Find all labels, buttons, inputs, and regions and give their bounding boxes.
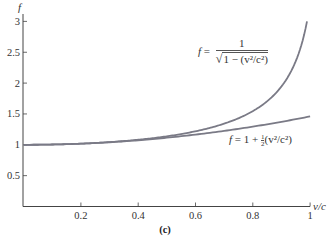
svg-text:0.4: 0.4 <box>132 210 146 221</box>
eq2-text: = 1 + <box>232 133 261 145</box>
svg-text:0.5: 0.5 <box>7 170 20 181</box>
chart-canvas: 0.511.522.53 0.20.40.60.81 f v/c <box>0 0 330 241</box>
eq1-radicand: 1 − (v²/c²) <box>222 52 268 65</box>
svg-text:1: 1 <box>307 210 312 221</box>
eq1-equals: = <box>201 45 213 57</box>
svg-text:0.6: 0.6 <box>189 210 202 221</box>
svg-text:2: 2 <box>15 78 20 89</box>
eq1-denominator: √1 − (v²/c²) <box>216 51 268 67</box>
y-ticks: 0.511.522.53 <box>7 16 27 181</box>
eq2-tail: (v²/c²) <box>264 133 291 145</box>
figure-caption: (c) <box>0 224 330 235</box>
eq1-numerator: 1 <box>216 37 268 51</box>
x-ticks: 0.20.40.60.81 <box>74 203 312 222</box>
x-axis-label: v/c <box>313 200 326 212</box>
svg-text:1: 1 <box>15 139 20 150</box>
svg-text:3: 3 <box>15 16 20 27</box>
svg-text:2.5: 2.5 <box>7 47 20 58</box>
svg-text:0.2: 0.2 <box>74 210 87 221</box>
svg-text:0.8: 0.8 <box>246 210 259 221</box>
y-axis-label: f <box>18 1 23 13</box>
eq1-fraction: 1 √1 − (v²/c²) <box>216 37 268 67</box>
approximation-equation-label: f = 1 + 12(v²/c²) <box>229 133 292 147</box>
relativistic-equation-label: f = 1 √1 − (v²/c²) <box>198 37 268 67</box>
svg-text:1.5: 1.5 <box>7 108 20 119</box>
